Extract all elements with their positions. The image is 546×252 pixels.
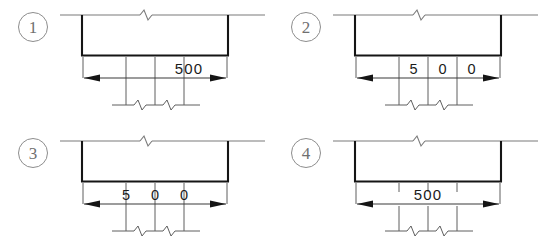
option-marker-1: 1 [18, 12, 48, 42]
extension-lines-1 [83, 57, 227, 105]
arrowhead-left-icon-3 [84, 201, 100, 208]
arrowhead-right-icon-4 [483, 201, 499, 208]
break-symbol-bottom-icon-b-1 [163, 100, 175, 110]
beam-dimension-drawing-4: 500 [333, 134, 538, 246]
slab-top-line-3 [60, 136, 265, 146]
drawing-sheet: 1 [0, 0, 546, 252]
dimension-text-4: 500 [414, 186, 443, 203]
lower-line-4 [385, 226, 473, 236]
slab-top-line-4 [333, 136, 538, 146]
arrowhead-right-icon-3 [210, 201, 226, 208]
lower-line-2 [385, 100, 473, 110]
break-symbol-top-icon-3 [140, 136, 152, 146]
option-marker-3: 3 [18, 138, 48, 168]
beam-dimension-drawing-2: 5 0 0 [333, 8, 538, 120]
dimension-text-1: 500 [175, 60, 204, 77]
extension-lines-2 [356, 57, 500, 105]
break-symbol-bottom-icon-a-2 [407, 100, 419, 110]
beam-outline-3 [81, 141, 229, 182]
beam-figure-4: 500 [333, 134, 538, 246]
dimension-digit-3-2: 0 [151, 187, 159, 203]
beam-outline-1 [81, 15, 229, 56]
slab-top-line-1 [60, 10, 265, 20]
dimension-digit-2-2: 0 [438, 61, 446, 77]
dimension-digit-3-3: 0 [180, 187, 188, 203]
break-symbol-top-icon-2 [413, 10, 425, 20]
break-symbol-bottom-icon-b-4 [436, 226, 448, 236]
break-symbol-top-icon-4 [413, 136, 425, 146]
break-symbol-bottom-icon-a-1 [134, 100, 146, 110]
break-symbol-bottom-icon-a-4 [407, 226, 419, 236]
slab-top-line-2 [333, 10, 538, 20]
break-symbol-bottom-icon-b-2 [436, 100, 448, 110]
option-3-panel: 3 [0, 126, 273, 252]
lower-line-1 [112, 100, 200, 110]
break-symbol-bottom-icon-b-3 [163, 226, 175, 236]
break-symbol-bottom-icon-a-3 [134, 226, 146, 236]
beam-dimension-drawing-3: 5 0 0 [60, 134, 265, 246]
lower-line-3 [112, 226, 200, 236]
dimension-digit-3-1: 5 [122, 187, 130, 203]
dimension-digit-2-1: 5 [409, 61, 417, 77]
dimension-digit-2-3: 0 [467, 61, 475, 77]
option-marker-2: 2 [291, 12, 321, 42]
beam-dimension-drawing-1: 500 [60, 8, 265, 120]
beam-outline-4 [354, 141, 502, 182]
option-1-panel: 1 [0, 0, 273, 126]
arrowhead-left-icon-1 [84, 75, 100, 82]
arrowhead-right-icon-2 [483, 75, 499, 82]
option-marker-4: 4 [291, 138, 321, 168]
beam-figure-3: 5 0 0 [60, 134, 265, 246]
beam-outline-2 [354, 15, 502, 56]
option-2-panel: 2 [273, 0, 546, 126]
arrowhead-right-icon-1 [210, 75, 226, 82]
break-symbol-top-icon-1 [140, 10, 152, 20]
beam-figure-1: 500 [60, 8, 265, 120]
beam-figure-2: 5 0 0 [333, 8, 538, 120]
arrowhead-left-icon-4 [357, 201, 373, 208]
arrowhead-left-icon-2 [357, 75, 373, 82]
option-4-panel: 4 [273, 126, 546, 252]
